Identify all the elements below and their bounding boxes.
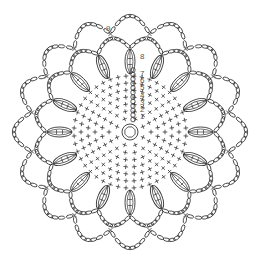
shell-icon [125, 190, 135, 215]
shell-icon [168, 170, 193, 195]
shell-icon [94, 53, 113, 80]
magic-ring-icon [122, 124, 138, 140]
shell-icon [182, 150, 209, 169]
shell-icon [148, 184, 167, 211]
row-label: 7 [140, 69, 145, 78]
shell-icon [68, 170, 93, 195]
single-crochet-rows [72, 74, 188, 190]
shell-icon [148, 53, 167, 80]
shell-icon [68, 70, 93, 95]
shell-icon [51, 96, 78, 115]
shell-icon [188, 127, 213, 137]
row-label: 8 [140, 52, 145, 61]
shell-icon [125, 49, 135, 74]
row-label: 9 [106, 24, 111, 33]
row-number-labels: 123456789 [106, 24, 145, 121]
shell-clusters [47, 49, 213, 215]
shell-icon [94, 184, 113, 211]
row-label: 4 [140, 91, 145, 100]
crochet-chart: 123456789 [0, 0, 256, 260]
shell-icon [168, 70, 193, 95]
shell-icon [47, 127, 72, 137]
shell-icon [51, 150, 78, 169]
shell-icon [182, 96, 209, 115]
